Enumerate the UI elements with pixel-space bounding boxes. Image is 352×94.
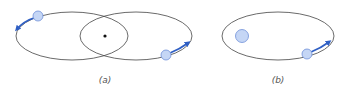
orbit-diagram-canvas	[0, 0, 352, 94]
panel-b	[222, 12, 334, 60]
panel-a	[16, 11, 192, 60]
orbit-diagram-figure: (a) (b)	[0, 0, 352, 94]
velocity-arrow-icon	[311, 42, 329, 52]
orbiting-body	[302, 49, 312, 59]
orbiting-body	[161, 50, 171, 60]
velocity-arrow-icon	[17, 18, 34, 29]
caption-panel-b: (b)	[258, 75, 298, 85]
caption-panel-a: (a)	[85, 75, 125, 85]
center-of-mass-dot	[103, 34, 106, 37]
central-star-body	[236, 30, 249, 43]
orbit-ellipse	[80, 12, 192, 60]
orbiting-body	[33, 11, 43, 21]
